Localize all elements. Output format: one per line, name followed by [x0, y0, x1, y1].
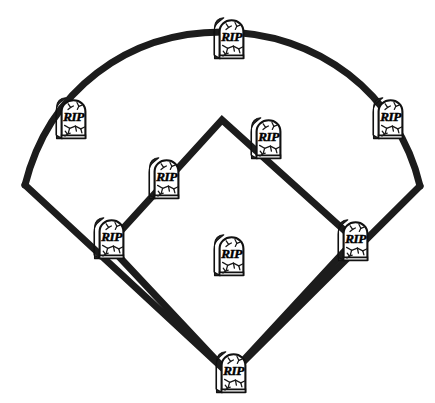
- background-plate: [0, 0, 435, 403]
- baseball-field-illustration: RIP Center Field — RIPLeft Field — RIPRi…: [0, 0, 435, 403]
- illustration-canvas: RIP Center Field — RIPLeft Field — RIPRi…: [0, 0, 435, 403]
